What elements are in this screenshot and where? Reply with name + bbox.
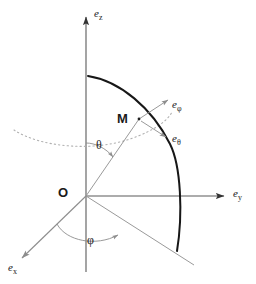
- unit-vector-e-theta-sub: θ: [177, 138, 181, 147]
- projection-ray-line: [86, 196, 194, 265]
- origin-label: O: [58, 186, 68, 199]
- radius-om-line: [86, 119, 139, 196]
- point-m-label: M: [117, 112, 128, 125]
- unit-vector-e-theta-label: eθ: [172, 133, 181, 147]
- point-m-marker: [138, 118, 141, 121]
- axis-y-label-sub: y: [238, 193, 242, 202]
- axis-z-label: ez: [94, 8, 102, 22]
- meridian-arc-curve: [88, 76, 180, 251]
- unit-vector-e-phi-sub: φ: [177, 104, 182, 113]
- axis-y-label: ey: [233, 188, 242, 202]
- diagram-canvas: [0, 0, 256, 284]
- phi-angle-label: φ: [87, 234, 94, 246]
- parallel-circle-curve: [14, 112, 172, 146]
- unit-vector-e-phi-label: eφ: [172, 99, 182, 113]
- axis-x-label-sub: x: [13, 267, 17, 276]
- axis-x-line: [22, 196, 86, 258]
- theta-angle-label: θ: [96, 139, 102, 151]
- spherical-coordinates-figure: ez ey ex O M θ φ eφ eθ: [0, 0, 256, 284]
- axis-x-label: ex: [8, 262, 17, 276]
- unit-vector-e-phi-arrow: [139, 100, 168, 119]
- axis-z-label-sub: z: [99, 13, 103, 22]
